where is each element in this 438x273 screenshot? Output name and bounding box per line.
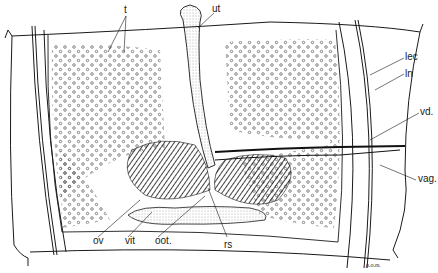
label-uterus: ut	[212, 4, 220, 14]
ovary-left	[127, 141, 210, 199]
label-lateral-excretory-canal: lec	[405, 52, 418, 62]
label-vagina: vag.	[418, 174, 437, 184]
label-lateral-nerve: ln	[405, 69, 413, 79]
label-testes: t	[124, 5, 127, 15]
ovary-right	[214, 154, 291, 204]
proglottid-illustration	[0, 0, 438, 273]
label-vas-deferens: vd.	[420, 107, 433, 117]
label-receptaculum-seminis: rs	[224, 240, 232, 250]
label-ootype: oot.	[155, 236, 172, 246]
artist-signature: ρ.o.m.	[366, 262, 381, 268]
label-ovary: ov	[93, 236, 104, 246]
label-vitellarium: vit	[125, 236, 135, 246]
